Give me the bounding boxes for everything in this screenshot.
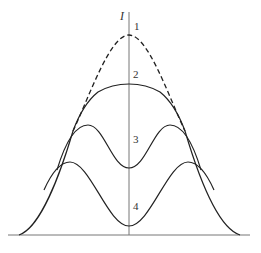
intensity-profile-diagram: I 1 2 3 4 — [0, 0, 261, 253]
label-curve-1: 1 — [134, 20, 140, 32]
label-curve-4: 4 — [133, 200, 139, 212]
axis-label-I: I — [119, 9, 125, 23]
label-curve-2: 2 — [133, 68, 139, 80]
label-curve-3: 3 — [133, 133, 139, 145]
